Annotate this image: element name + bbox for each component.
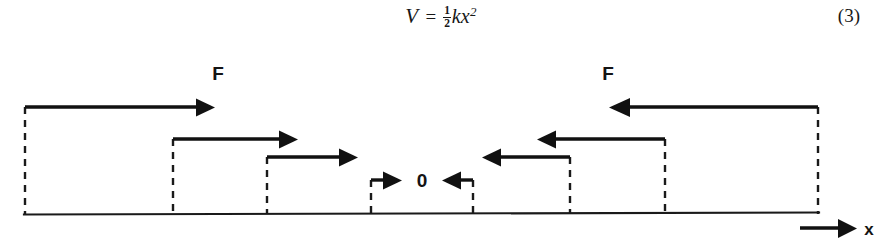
equation-variable: V (405, 4, 418, 28)
force-arrow-right-4 (442, 172, 473, 190)
equation-exponent: 2 (470, 4, 477, 19)
dashed-vertical-lines (25, 107, 818, 214)
diagram-svg: F F 0 x (0, 46, 882, 239)
equation-fraction-one-half: 12 (443, 5, 451, 29)
force-arrow-left-1 (25, 99, 215, 117)
x-axis-arrow (800, 219, 857, 238)
origin-label: 0 (417, 170, 428, 191)
force-arrow-right-2 (537, 131, 665, 149)
force-arrow-left-2 (173, 131, 298, 149)
force-displacement-diagram: F F 0 x (0, 46, 882, 239)
force-arrow-right-1 (609, 98, 818, 117)
equation-row: V=12kx2 (3) (0, 0, 882, 46)
equation-expression: V=12kx2 (0, 4, 882, 30)
figure-page: V=12kx2 (3) (0, 0, 882, 239)
force-label-left: F (212, 63, 224, 84)
force-arrow-left-4 (371, 172, 402, 190)
equation-body-kx: kx (452, 5, 470, 27)
baseline-axis (24, 213, 819, 215)
equation-equals-sign: = (418, 6, 443, 27)
force-label-right: F (602, 63, 614, 84)
x-axis-label: x (864, 220, 874, 239)
fraction-denominator: 2 (443, 18, 451, 30)
force-arrow-left-3 (267, 149, 358, 167)
force-arrow-right-3 (482, 149, 570, 167)
equation-number: (3) (838, 5, 860, 27)
